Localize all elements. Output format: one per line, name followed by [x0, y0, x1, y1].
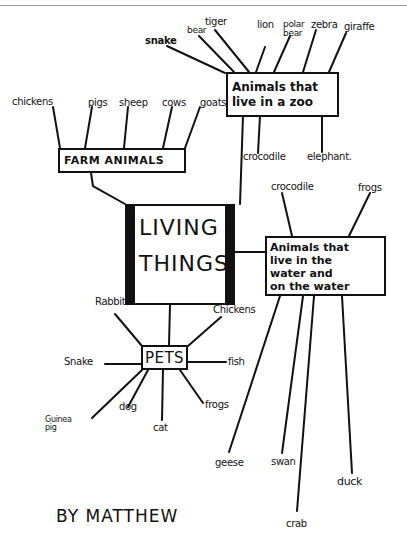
leaf-tiger: tiger	[205, 17, 227, 27]
leaf-geese: geese	[215, 458, 244, 468]
leaf-duck: duck	[337, 476, 362, 487]
leaf-fish: fish	[228, 357, 245, 367]
leaf-snake-zoo: snake	[145, 36, 176, 46]
farm-label: FARM ANIMALS	[64, 154, 164, 167]
leaf-polar-bear: polar bear	[283, 20, 307, 38]
leaf-goats: goats	[200, 98, 226, 108]
node-pets: PETS	[141, 345, 188, 370]
zoo-label-line2: live in a zoo	[232, 95, 331, 110]
leaf-giraffe: giraffe	[344, 22, 374, 32]
leaf-pig: pig	[45, 424, 56, 432]
leaf-elephant: elephant.	[307, 152, 352, 162]
zoo-label-line1: Animals that	[232, 80, 331, 95]
leaf-frogs-water: frogs	[358, 183, 382, 193]
leaf-rabbits: Rabbits	[95, 297, 130, 307]
leaf-sheep: sheep	[119, 98, 148, 108]
node-living-things: LIVING THINGS	[125, 204, 235, 305]
node-farm-animals: FARM ANIMALS	[58, 148, 186, 173]
leaf-cat: cat	[153, 423, 168, 433]
central-line1: LIVING	[139, 210, 225, 246]
leaf-frogs-pets: frogs	[205, 400, 229, 410]
leaf-chickens-pets: Chickens	[213, 305, 255, 315]
leaf-lion: lion	[257, 20, 274, 30]
leaf-zebra: zebra	[311, 20, 338, 30]
pets-label: PETS	[145, 349, 184, 367]
leaf-crocodile-zoo: crocodile	[243, 152, 285, 162]
central-line2: THINGS	[139, 246, 225, 282]
leaf-crocodile-water: crocodile	[271, 182, 313, 192]
leaf-swan: swan	[271, 457, 296, 467]
leaf-pigs: pigs	[88, 98, 107, 108]
node-zoo-animals: Animals that live in a zoo	[226, 72, 339, 117]
leaf-dog: dog	[119, 402, 137, 412]
leaf-snake-pets: Snake	[64, 357, 93, 367]
leaf-chickens-farm: chickens	[12, 97, 53, 107]
leaf-cows: cows	[162, 98, 186, 108]
node-water-animals: Animals that live in the water and on th…	[265, 236, 386, 296]
author-signature: BY MATTHEW	[56, 508, 178, 525]
leaf-crab: crab	[286, 519, 307, 529]
leaf-bear: bear	[187, 26, 206, 35]
